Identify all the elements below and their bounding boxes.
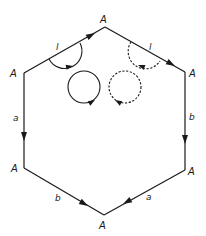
- hexagon-diagram: A A A A A A l l b a b a: [0, 0, 206, 236]
- vertex-label-top: A: [99, 14, 107, 25]
- hexagon-edges: [24, 27, 185, 215]
- vertex-label-upper-right: A: [188, 68, 196, 79]
- dashed-circle-loop: [109, 71, 141, 106]
- edge-label-lower-right: a: [146, 192, 152, 202]
- vertex-label-upper-left: A: [9, 68, 17, 79]
- arrow-lower-right-edge-icon: [122, 197, 133, 207]
- edge-label-upper-right: l: [149, 42, 152, 52]
- arrow-right-edge-icon: [182, 135, 188, 144]
- dashed-circle: [109, 71, 141, 103]
- vertex-label-lower-right: A: [187, 166, 195, 177]
- edge-label-right: b: [189, 112, 195, 122]
- edge-labels: l l b a b a: [13, 42, 195, 203]
- edge-lower-left: [24, 168, 104, 215]
- edge-lower-right: [104, 170, 185, 215]
- arrow-left-edge-icon: [21, 132, 27, 141]
- arrow-upper-right-edge-icon: [166, 59, 177, 69]
- edge-label-left: a: [13, 113, 19, 123]
- vertex-label-lower-left: A: [10, 163, 18, 174]
- solid-circle-loop: [68, 71, 100, 106]
- arrow-upper-left-edge-icon: [86, 30, 97, 40]
- vertex-labels: A A A A A A: [9, 14, 196, 231]
- arrow-lower-left-edge-icon: [79, 199, 90, 209]
- vertex-label-bottom: A: [98, 220, 106, 231]
- solid-circle: [68, 71, 100, 103]
- edge-label-lower-left: b: [55, 193, 61, 203]
- edge-label-upper-left: l: [56, 42, 59, 52]
